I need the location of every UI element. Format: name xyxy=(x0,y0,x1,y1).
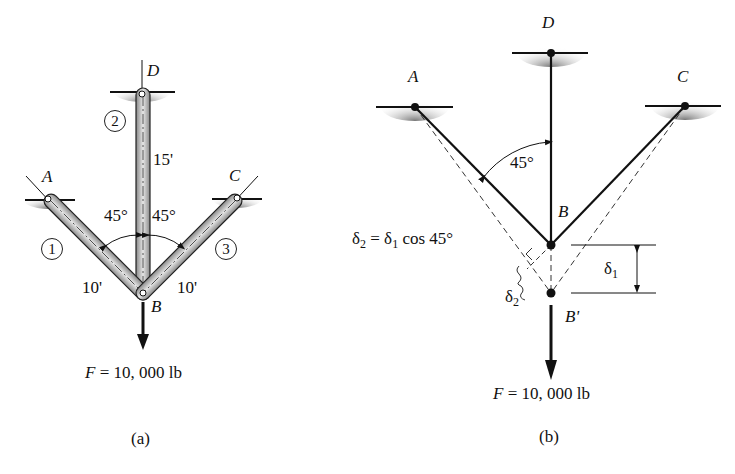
right-angle-mark xyxy=(526,248,532,260)
member-ab xyxy=(415,107,551,245)
member-1-length: 10' xyxy=(82,279,102,296)
force-label-b: F = 10, 000 lb xyxy=(493,385,590,402)
delta1-label: δ1 xyxy=(604,260,618,277)
label-b-prime: B' xyxy=(565,308,579,325)
pin-d xyxy=(139,91,145,97)
pin-a xyxy=(45,196,51,202)
member-2 xyxy=(136,88,150,296)
member-2-number: 2 xyxy=(104,110,126,132)
pin-c xyxy=(234,195,240,201)
member-3-number: 3 xyxy=(215,238,237,260)
perpendicular-line xyxy=(527,245,551,269)
angle-arc-right xyxy=(146,235,182,247)
label-a-a: A xyxy=(42,168,52,185)
joint-b xyxy=(547,241,556,250)
caption-b: (b) xyxy=(539,428,559,445)
force-label-a: F = 10, 000 lb xyxy=(85,364,182,381)
joint-b-prime xyxy=(547,289,556,298)
label-d-b: D xyxy=(542,14,554,31)
angle-arc-left xyxy=(104,235,140,247)
label-d-a: D xyxy=(147,62,159,79)
label-c-a: C xyxy=(229,167,240,184)
member-1-number: 1 xyxy=(41,238,63,260)
caption-a: (a) xyxy=(131,430,150,447)
angle-right-label: 45° xyxy=(152,207,176,224)
angle-left-label: 45° xyxy=(104,207,128,224)
pin-b xyxy=(140,290,146,296)
delta-equation: δ2 = δ1 cos 45° xyxy=(352,230,453,247)
figure-a xyxy=(24,60,262,350)
label-c-b: C xyxy=(677,68,688,85)
angle-label-b: 45° xyxy=(510,154,534,171)
label-b-a: B xyxy=(151,298,161,315)
member-3-length: 10' xyxy=(177,279,197,296)
member-2-length: 15' xyxy=(153,151,173,168)
member-cb xyxy=(551,106,685,245)
label-b-b: B xyxy=(558,203,568,220)
figure-b xyxy=(376,39,721,380)
label-a-b: A xyxy=(408,68,418,85)
delta2-label: δ2 xyxy=(505,288,519,305)
